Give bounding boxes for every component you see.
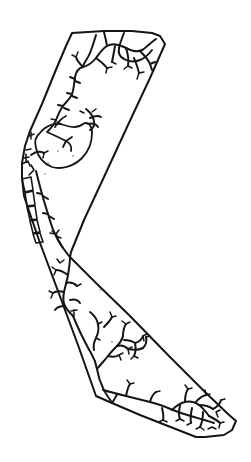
br-branch-4a bbox=[221, 399, 225, 400]
speck-c bbox=[111, 341, 113, 343]
lower-bottom-branch-2a bbox=[156, 391, 160, 392]
br-branch-8 bbox=[179, 405, 180, 419]
enclave-speck-1 bbox=[57, 150, 59, 152]
speck-b bbox=[99, 289, 100, 290]
enclave-speck-2 bbox=[72, 155, 74, 157]
speck-a bbox=[44, 173, 45, 174]
lm-tick-2 bbox=[26, 149, 31, 150]
map-canvas bbox=[0, 0, 251, 462]
enclave-speck-3 bbox=[47, 162, 49, 164]
figure-root: Hand-drawn bent corridor map sketch bbox=[0, 0, 251, 462]
lower-tree-branch-8a bbox=[146, 336, 150, 337]
